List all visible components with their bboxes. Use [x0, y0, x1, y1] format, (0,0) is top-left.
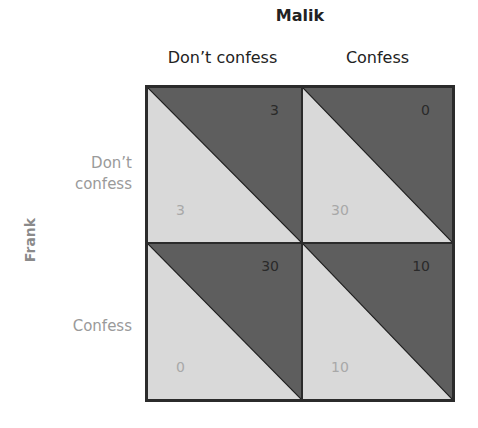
cell-confess-dontconfess: 30 0	[148, 244, 301, 399]
payoff-matrix: 3 3 0 30 30 0 10 10	[145, 85, 455, 402]
payoff-frank: 0	[176, 359, 185, 375]
payoff-malik: 3	[270, 102, 279, 118]
column-strategy-dont-confess: Don’t confess	[145, 48, 300, 67]
column-strategy-confess: Confess	[300, 48, 455, 67]
payoff-malik: 30	[261, 258, 279, 274]
row-strategy-dont-confess: Don’t confess	[75, 153, 132, 195]
row-strategy-dont-confess-line2: confess	[75, 175, 132, 193]
cell-dontconfess-confess: 0 30	[303, 88, 452, 242]
row-strategy-confess: Confess	[73, 316, 132, 337]
payoff-malik: 0	[421, 102, 430, 118]
payoff-malik: 10	[412, 258, 430, 274]
payoff-frank: 10	[331, 359, 349, 375]
column-player-name: Malik	[145, 6, 455, 25]
cell-dontconfess-dontconfess: 3 3	[148, 88, 301, 242]
row-strategy-dont-confess-line1: Don’t	[91, 154, 132, 172]
payoff-frank: 3	[176, 202, 185, 218]
payoff-frank: 30	[331, 202, 349, 218]
row-player-name: Frank	[22, 210, 38, 270]
cell-confess-confess: 10 10	[303, 244, 452, 399]
